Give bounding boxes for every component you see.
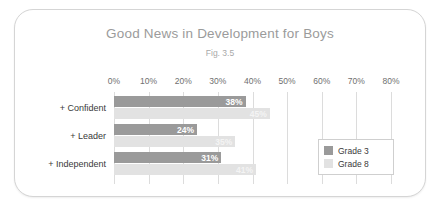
category-label-0: + Confident	[60, 103, 106, 113]
bar-value-label-0-1: 45%	[250, 109, 270, 119]
x-axis-tick-3: 30%	[209, 76, 226, 86]
legend-item-1: Grade 8	[324, 157, 388, 170]
x-axis-tick-4: 40%	[244, 76, 261, 86]
bar-value-label-1-0: 24%	[177, 125, 197, 135]
x-axis-tick-0: 0%	[108, 76, 120, 86]
bar-value-label-1-1: 35%	[215, 137, 235, 147]
chart-legend: Grade 3Grade 8	[318, 139, 394, 175]
chart-card: Good News in Development for Boys Fig. 3…	[14, 9, 426, 197]
gridline-5	[287, 92, 288, 184]
x-axis-tick-1: 10%	[140, 76, 157, 86]
bar-0-1: 45%	[114, 108, 270, 119]
x-axis-tick-8: 80%	[382, 76, 399, 86]
legend-swatch-0	[324, 146, 333, 155]
x-axis-tick-7: 70%	[348, 76, 365, 86]
bar-0-0: 38%	[114, 96, 246, 107]
x-axis-tick-6: 60%	[313, 76, 330, 86]
bar-value-label-2-1: 41%	[236, 165, 256, 175]
bar-1-1: 35%	[114, 136, 235, 147]
chart-subtitle: Fig. 3.5	[15, 48, 425, 58]
bar-1-0: 24%	[114, 124, 197, 135]
legend-swatch-1	[324, 159, 333, 168]
bar-2-1: 41%	[114, 164, 256, 175]
x-axis-tick-5: 50%	[279, 76, 296, 86]
category-label-1: + Leader	[70, 131, 106, 141]
legend-item-0: Grade 3	[324, 144, 388, 157]
legend-label-1: Grade 8	[338, 159, 369, 169]
bar-value-label-0-0: 38%	[226, 97, 246, 107]
bar-2-0: 31%	[114, 152, 221, 163]
category-label-2: + Independent	[48, 159, 106, 169]
x-axis-tick-labels: 0%10%20%30%40%50%60%70%80%	[114, 76, 391, 88]
x-axis-tick-2: 20%	[175, 76, 192, 86]
chart-title: Good News in Development for Boys	[15, 26, 425, 41]
legend-label-0: Grade 3	[338, 146, 369, 156]
bar-value-label-2-0: 31%	[201, 153, 221, 163]
